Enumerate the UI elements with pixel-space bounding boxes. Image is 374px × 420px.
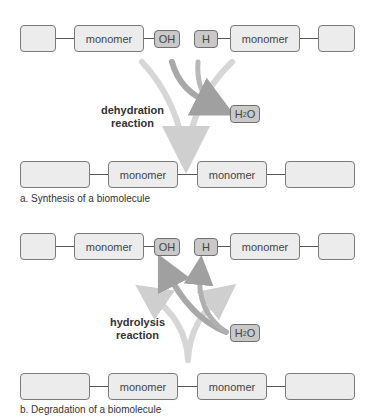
monomer-box: monomer: [197, 161, 267, 188]
chain-end-box: [20, 233, 56, 260]
chain-end-box: [285, 161, 355, 188]
label-line-1: hydrolysis: [110, 316, 165, 328]
dehydration-label: dehydration reaction: [95, 104, 170, 130]
water-o: O: [247, 327, 256, 339]
bond-line: [218, 38, 230, 39]
label-line-2: reaction: [111, 117, 154, 129]
bond-line: [144, 38, 154, 39]
water-h: H: [235, 327, 243, 339]
water-reactant: H2O: [230, 324, 260, 342]
caption-a: a. Synthesis of a biomolecule: [20, 193, 150, 204]
bond-line: [90, 386, 108, 387]
chain-end-box: [318, 25, 355, 52]
water-o: O: [247, 108, 256, 120]
monomer-box: monomer: [197, 373, 267, 400]
chain-end-box: [20, 161, 90, 188]
bond-line: [178, 386, 198, 387]
bond-line: [144, 246, 154, 247]
label-line-1: dehydration: [101, 104, 164, 116]
chain-end-box: [285, 373, 355, 400]
bond-line: [178, 174, 198, 175]
hydrolysis-arrows: [150, 270, 226, 360]
bond-line: [267, 174, 285, 175]
bond-line: [54, 38, 74, 39]
caption-b: b. Degradation of a biomolecule: [20, 404, 161, 415]
reaction-arrows: [0, 0, 374, 420]
chain-end-box: [318, 233, 355, 260]
chain-end-box: [20, 373, 90, 400]
label-line-2: reaction: [116, 329, 159, 341]
monomer-box: monomer: [74, 233, 144, 260]
hydrolysis-label: hydrolysis reaction: [100, 316, 175, 342]
bond-line: [300, 246, 318, 247]
hydroxyl-group: OH: [154, 238, 180, 256]
water-product: H2O: [230, 105, 260, 123]
bond-line: [54, 246, 74, 247]
monomer-box: monomer: [230, 25, 300, 52]
water-h: H: [235, 108, 243, 120]
monomer-box: monomer: [230, 233, 300, 260]
monomer-box: monomer: [108, 161, 178, 188]
hydroxyl-group: OH: [154, 30, 180, 48]
monomer-box: monomer: [108, 373, 178, 400]
bond-line: [90, 174, 108, 175]
chain-end-box: [20, 25, 56, 52]
monomer-box: monomer: [74, 25, 144, 52]
bond-line: [300, 38, 318, 39]
hydrogen-group: H: [194, 30, 218, 48]
hydrogen-group: H: [194, 238, 218, 256]
bond-line: [218, 246, 230, 247]
bond-line: [267, 386, 285, 387]
